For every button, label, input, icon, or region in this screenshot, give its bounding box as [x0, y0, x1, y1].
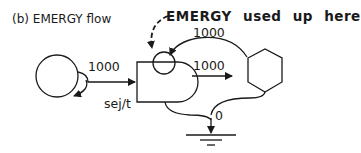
diagram-title: (b) EMERGY flow — [12, 13, 111, 25]
source-loss-arrow — [74, 80, 87, 96]
unit-label: sej/t — [104, 98, 131, 111]
heat-flow-line-left — [165, 102, 211, 120]
source-circle — [36, 55, 78, 97]
input-flow-label: 1000 — [88, 61, 120, 74]
heat-sink-label: 0 — [215, 110, 223, 123]
interaction-circle — [153, 52, 175, 74]
feedback-flow-arrow — [170, 37, 247, 57]
output-flow-label: 1000 — [193, 60, 225, 73]
annotation-text: EMERGY used up here — [166, 10, 361, 24]
feedback-flow-label: 1000 — [193, 27, 225, 40]
consumer-hexagon — [248, 49, 282, 92]
storage-tank — [137, 62, 198, 102]
